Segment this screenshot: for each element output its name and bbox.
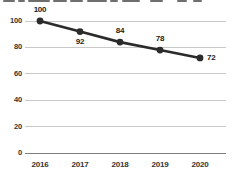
data-point-marker — [77, 28, 84, 35]
data-point-marker — [197, 55, 204, 62]
x-axis-tick-label: 2020 — [180, 160, 220, 169]
line-chart: 100806040200 100201692201784201878201972… — [0, 0, 232, 181]
data-point-marker — [37, 18, 44, 25]
data-point-label: 78 — [156, 35, 165, 43]
x-axis-tick-label: 2016 — [20, 160, 60, 169]
x-axis-tick-label: 2017 — [60, 160, 100, 169]
data-point-marker — [117, 39, 124, 46]
data-point-label: 100 — [34, 6, 47, 14]
data-point-marker — [157, 47, 164, 54]
data-point-label: 84 — [116, 27, 125, 35]
x-axis-tick-label: 2019 — [140, 160, 180, 169]
data-point-label: 92 — [76, 38, 85, 46]
data-point-label: 72 — [207, 54, 216, 62]
x-axis-tick-label: 2018 — [100, 160, 140, 169]
chart-screenshot: 100806040200 100201692201784201878201972… — [0, 0, 232, 181]
